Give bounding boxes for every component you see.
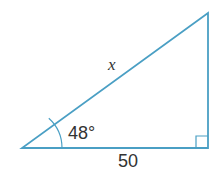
hypotenuse-label: x: [107, 55, 116, 74]
right-triangle-diagram: x 48° 50: [0, 0, 219, 179]
right-angle-marker: [196, 136, 208, 148]
triangle-shape: [22, 13, 208, 148]
angle-label: 48°: [68, 123, 95, 143]
base-label: 50: [118, 151, 138, 171]
